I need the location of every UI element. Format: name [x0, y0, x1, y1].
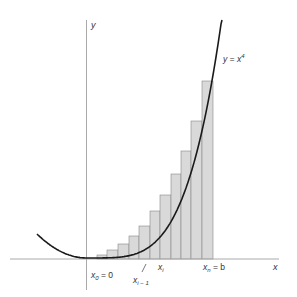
label-xn: xn = b — [202, 262, 225, 273]
rectangle-8 — [171, 174, 181, 259]
rectangle-10 — [191, 121, 202, 259]
riemann-rectangles — [97, 81, 213, 259]
riemann-sum-diagram: y x y = x4 x0 = 0 xi xi − 1 xn = b — [0, 0, 297, 297]
label-x0: x0 = 0 — [90, 270, 113, 281]
y-axis-label: y — [90, 20, 96, 30]
rectangle-9 — [181, 151, 191, 259]
rectangle-5 — [139, 226, 150, 259]
pointer-xim1 — [142, 264, 146, 272]
x-axis-label: x — [272, 262, 278, 272]
label-xim1: xi − 1 — [132, 275, 149, 286]
label-xi: xi — [157, 262, 164, 273]
rectangle-7 — [160, 195, 171, 259]
curve-label: y = x4 — [222, 53, 245, 64]
rectangle-6 — [150, 211, 160, 259]
